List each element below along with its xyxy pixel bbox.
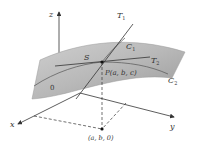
surface-label: S xyxy=(84,53,90,62)
projection-x-parallel xyxy=(34,116,102,129)
projection-y-parallel xyxy=(102,103,126,129)
point-p xyxy=(100,60,103,63)
y-axis-label: y xyxy=(169,122,175,131)
point-projection xyxy=(100,127,103,130)
curve-c2-label: C2 xyxy=(168,76,177,86)
point-projection-label: (a, b, 0) xyxy=(88,134,114,142)
tangent-plane-diagram: z x y 0 S T1 T2 C1 C2 P(a, b, c) (a, b, … xyxy=(0,0,197,148)
x-axis-label: x xyxy=(10,120,15,129)
tangent-t1-label: T1 xyxy=(117,11,126,21)
z-axis-label: z xyxy=(48,10,54,19)
origin-label: 0 xyxy=(50,84,54,92)
point-p-label: P(a, b, c) xyxy=(104,69,137,77)
x-axis xyxy=(18,93,80,124)
y-axis xyxy=(80,93,174,117)
